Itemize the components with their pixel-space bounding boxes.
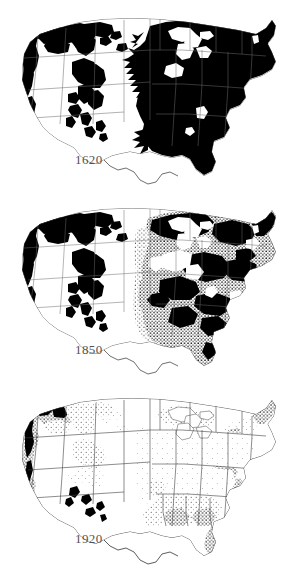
us-map-1850 bbox=[0, 196, 303, 382]
map-panel-1620: 1620 bbox=[0, 6, 303, 192]
southern-border-1620 bbox=[104, 160, 178, 184]
map-panel-1920: 1920 bbox=[0, 386, 303, 570]
year-label-1620: 1620 bbox=[75, 152, 103, 168]
year-label-1850: 1850 bbox=[75, 342, 103, 358]
year-label-1920: 1920 bbox=[75, 531, 103, 547]
forest-cover-figure: 1620 bbox=[0, 0, 303, 570]
southern-border-1850 bbox=[104, 350, 178, 374]
us-map-1620 bbox=[0, 6, 303, 192]
us-map-1920 bbox=[0, 386, 303, 570]
map-panel-1850: 1850 bbox=[0, 196, 303, 382]
southern-border-1920 bbox=[104, 540, 178, 564]
